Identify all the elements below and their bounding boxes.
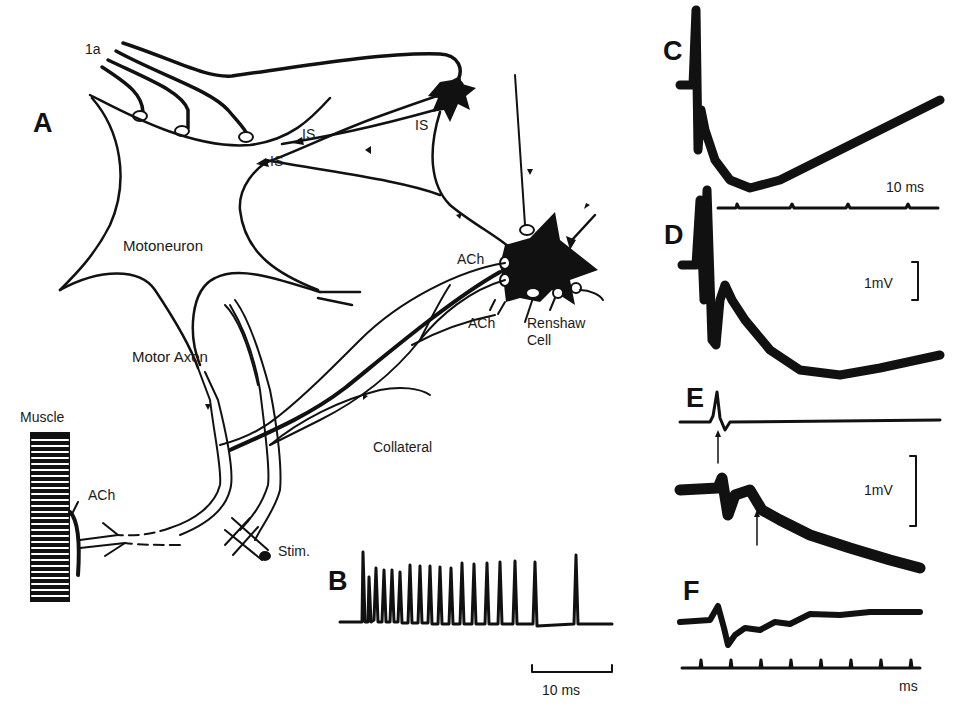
panel-label-b: B — [328, 568, 348, 595]
ia-afferent-fibers — [102, 43, 460, 136]
scale-label-c: 10 ms — [886, 180, 924, 194]
label-is-interneuron: IS — [415, 118, 428, 132]
trace-d — [682, 190, 940, 375]
time-marks-c — [718, 204, 938, 208]
label-ach-renshaw-upper: ACh — [457, 252, 484, 266]
label-ach-renshaw-lower: ACh — [468, 316, 495, 330]
label-is-lower: IS — [270, 154, 283, 168]
panel-label-e: E — [686, 385, 704, 412]
scale-bar-b — [532, 665, 612, 672]
label-stim: Stim. — [278, 544, 310, 558]
muscle-block — [30, 432, 79, 602]
label-muscle: Muscle — [20, 410, 64, 424]
trace-f — [680, 606, 920, 645]
ia-boutons — [133, 81, 463, 142]
panel-label-a: A — [33, 110, 53, 137]
panel-label-f: F — [683, 578, 700, 605]
scale-label-e: 1mV — [864, 483, 893, 497]
label-motoneuron: Motoneuron — [123, 238, 203, 253]
scale-bar-d — [912, 262, 918, 300]
panel-label-c: C — [663, 38, 683, 65]
motor-axons — [170, 300, 281, 540]
label-ach-muscle: ACh — [88, 488, 115, 502]
label-1a-afferent: 1a — [85, 42, 101, 56]
label-renshaw-cell: Cell — [527, 333, 551, 347]
trace-e-top — [680, 392, 940, 430]
scale-label-d: 1mV — [864, 276, 893, 290]
time-marks-f — [682, 660, 920, 668]
trace-b — [340, 552, 612, 626]
scale-label-f: ms — [899, 679, 918, 693]
label-motor-axon: Motor Axon — [132, 349, 208, 364]
scale-label-b: 10 ms — [542, 683, 580, 697]
interneuron-soma — [428, 76, 476, 122]
trace-c — [680, 10, 940, 188]
label-renshaw: Renshaw — [527, 316, 585, 330]
label-is-upper: IS — [302, 127, 315, 141]
panel-label-d: D — [664, 222, 684, 249]
scale-bar-e — [910, 456, 916, 526]
label-collateral: Collateral — [373, 440, 432, 454]
